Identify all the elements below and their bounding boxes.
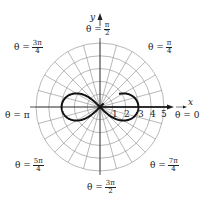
x-axis-label: x bbox=[188, 97, 193, 107]
label-text: θ = π bbox=[5, 111, 30, 120]
label-text: θ = 0 bbox=[175, 111, 199, 120]
grid-ray bbox=[45, 107, 100, 139]
grid-ray bbox=[100, 52, 132, 107]
y-axis-label: y bbox=[90, 12, 95, 22]
x-tick-1: 1 bbox=[112, 109, 118, 119]
denominator: 4 bbox=[35, 48, 39, 55]
denominator: 2 bbox=[105, 30, 109, 37]
angle-label-5pi-over-4: θ = 5π4 bbox=[15, 158, 44, 174]
grid-ray bbox=[83, 45, 100, 107]
grid-ray bbox=[100, 45, 117, 107]
fraction: 5π4 bbox=[33, 158, 44, 174]
denominator: 4 bbox=[36, 166, 40, 173]
label-prefix: θ = bbox=[14, 43, 30, 52]
fraction: π2 bbox=[104, 22, 111, 38]
denominator: 2 bbox=[108, 188, 112, 195]
denominator: 4 bbox=[171, 166, 175, 173]
angle-label-zero: θ = 0 bbox=[175, 111, 199, 120]
x-tick-5: 5 bbox=[161, 109, 167, 119]
grid-ray bbox=[83, 107, 100, 169]
x-tick-3: 3 bbox=[138, 109, 144, 119]
fraction: 7π4 bbox=[168, 158, 179, 174]
fraction: 3π4 bbox=[32, 40, 43, 56]
label-prefix: θ = bbox=[86, 25, 102, 34]
angle-label-3pi-over-4: θ = 3π4 bbox=[14, 40, 43, 56]
label-prefix: θ = bbox=[15, 161, 31, 170]
x-tick-4: 4 bbox=[150, 109, 156, 119]
grid-ray bbox=[100, 75, 155, 107]
angle-label-pi: θ = π bbox=[5, 111, 30, 120]
label-prefix: θ = bbox=[87, 183, 103, 192]
label-prefix: θ = bbox=[150, 161, 166, 170]
grid-ray bbox=[100, 90, 162, 107]
angle-label-3pi-over-2: θ = 3π2 bbox=[87, 180, 116, 196]
angle-label-pi-over-2: θ = π2 bbox=[86, 22, 110, 38]
fraction: 3π2 bbox=[105, 180, 116, 196]
grid-ray bbox=[45, 75, 100, 107]
angle-label-7pi-over-4: θ = 7π4 bbox=[150, 158, 179, 174]
label-prefix: θ = bbox=[148, 43, 164, 52]
x-tick-2: 2 bbox=[124, 109, 130, 119]
x-small-arrow-icon bbox=[183, 106, 187, 109]
grid-ray bbox=[68, 52, 100, 107]
grid-ray bbox=[100, 62, 145, 107]
denominator: 4 bbox=[167, 48, 171, 55]
fraction: π4 bbox=[166, 40, 173, 56]
grid-ray bbox=[68, 107, 100, 162]
angle-label-pi-over-4: θ = π4 bbox=[148, 40, 172, 56]
